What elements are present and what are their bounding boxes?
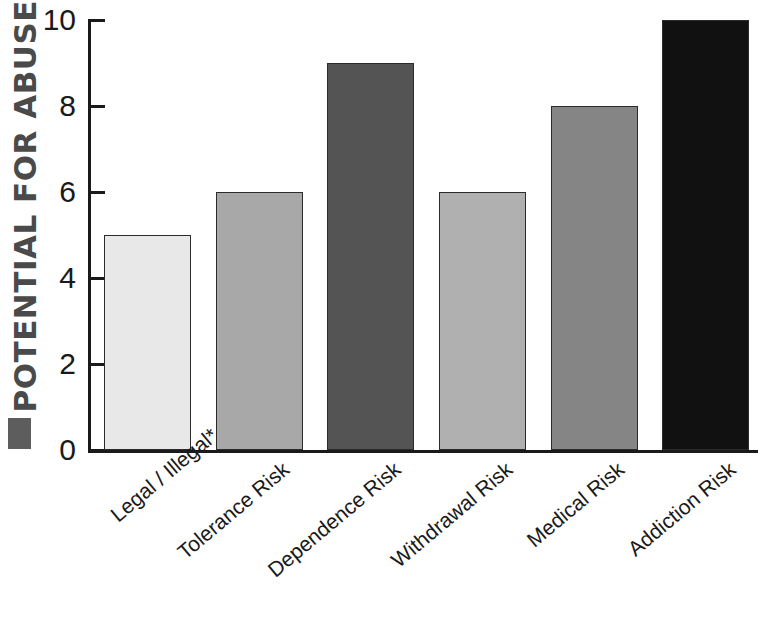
x-axis-tick-labels: Legal / Illegal*Tolerance RiskDependence… [88, 458, 758, 633]
bar [551, 106, 638, 450]
y-axis-tick-mark: 6 [88, 191, 105, 194]
plot-area: 0246810 [88, 20, 758, 450]
bar [327, 63, 414, 450]
y-axis-tick-mark: 4 [88, 277, 105, 280]
y-axis-tick-label: 2 [59, 349, 76, 379]
y-axis-spine [88, 20, 91, 453]
y-axis-tick-label: 6 [59, 177, 76, 207]
y-axis-tick-mark: 8 [88, 105, 105, 108]
y-axis-title-group: POTENTIAL FOR ABUSE [0, 0, 44, 460]
y-axis-tick-label: 0 [59, 435, 76, 465]
bar [104, 235, 191, 450]
bar [439, 192, 526, 450]
bar [216, 192, 303, 450]
y-axis-tick-mark: 10 [88, 19, 105, 22]
y-axis-tick-mark: 0 [88, 449, 105, 452]
x-axis-tick-label: Legal / Illegal* [107, 458, 181, 525]
bar-chart-figure: POTENTIAL FOR ABUSE 0246810 Legal / Ille… [0, 0, 763, 633]
bar [662, 20, 749, 450]
y-axis-title: POTENTIAL FOR ABUSE [5, 0, 45, 460]
y-axis-title-marker-icon [8, 418, 31, 449]
y-axis-tick-label: 4 [59, 263, 76, 293]
y-axis-tick-label: 10 [43, 5, 76, 35]
y-axis-tick-mark: 2 [88, 363, 105, 366]
y-axis-tick-label: 8 [59, 91, 76, 121]
